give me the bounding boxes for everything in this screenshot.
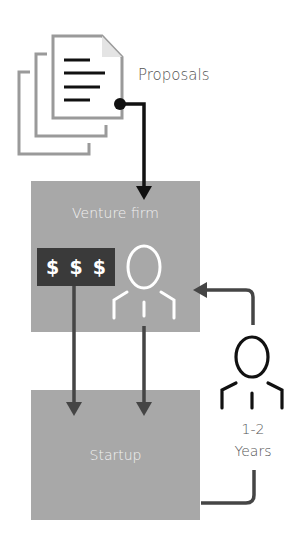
dollar-sign: $ <box>46 256 59 278</box>
money-box: $ $ $ <box>37 248 115 286</box>
dollar-sign: $ <box>93 256 106 278</box>
duration-label: 1-2 Years <box>222 418 284 462</box>
startup-label: Startup <box>31 447 200 463</box>
document-stack-icon <box>19 36 122 154</box>
startup-return-connector <box>201 470 254 503</box>
duration-value: 1-2 <box>222 418 284 440</box>
venture-firm-label: Venture firm <box>31 205 200 221</box>
proposals-label: Proposals <box>138 66 209 84</box>
advisor-arrow <box>136 326 152 416</box>
dollar-sign: $ <box>69 256 82 278</box>
duration-unit: Years <box>222 440 284 462</box>
founder-return-arrow <box>193 282 253 325</box>
founder-person-icon <box>222 337 282 408</box>
